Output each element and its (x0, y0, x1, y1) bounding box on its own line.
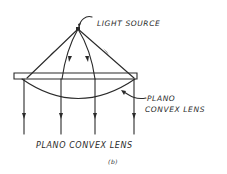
ray-4-incident (78, 29, 134, 78)
diagram-title: PLANO CONVEX LENS (36, 141, 133, 150)
lens-flat-top (14, 73, 137, 79)
arrow-icon (85, 56, 89, 62)
light-source-label: LIGHT SOURCE (97, 19, 160, 28)
plano-convex-lens-diagram: LIGHT SOURCE PLANO CONVEX LENS PLANO CON… (0, 0, 227, 174)
arrow-icon (22, 113, 26, 119)
arrow-icon (68, 56, 72, 62)
lens-label-line2: CONVEX LENS (145, 105, 205, 114)
lens-leader-line (124, 92, 146, 99)
arrow-icon (132, 113, 136, 119)
lens-convex-surface (22, 79, 135, 99)
arrow-icon (93, 113, 97, 119)
light-source-point (76, 27, 80, 30)
light-source-leader-line (79, 17, 92, 27)
lens-label-line1: PLANO (147, 94, 175, 103)
arrow-icon (59, 113, 63, 119)
figure-caption: (b) (108, 158, 118, 165)
arrow-icon (121, 90, 126, 95)
ray-1-incident (27, 29, 78, 78)
